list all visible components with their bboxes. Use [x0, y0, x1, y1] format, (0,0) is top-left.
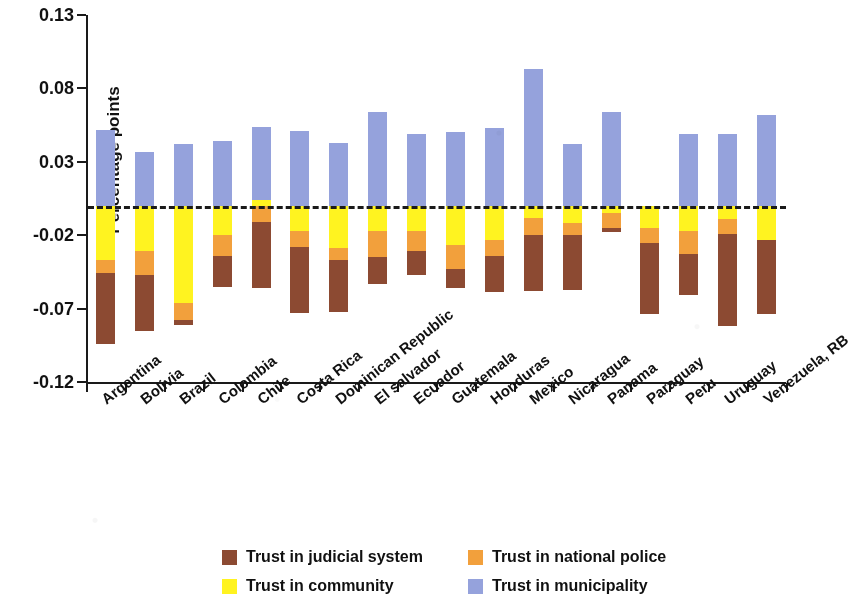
bar-segment [96, 260, 115, 273]
legend-label: Trust in national police [492, 548, 666, 566]
legend-swatch-icon [468, 579, 483, 594]
bar-segment [407, 231, 426, 252]
bar-segment [679, 134, 698, 206]
bar-segment [524, 69, 543, 206]
bar-segment [563, 223, 582, 235]
bar-dominican-republic [329, 15, 348, 382]
bar-segment [329, 260, 348, 311]
bar-mexico [524, 15, 543, 382]
y-tick-label: 0.13 [8, 5, 74, 26]
bar-costa-rica [290, 15, 309, 382]
bar-segment [563, 235, 582, 289]
y-tick-label: -0.12 [8, 372, 74, 393]
bar-segment [718, 234, 737, 326]
bar-segment [407, 206, 426, 231]
bar-segment [485, 256, 504, 293]
bar-segment [563, 144, 582, 206]
bar-segment [679, 254, 698, 295]
bar-segment [213, 206, 232, 235]
bar-segment [602, 228, 621, 232]
bar-segment [757, 115, 776, 206]
y-axis-line [86, 15, 88, 383]
y-tick-label: 0.08 [8, 78, 74, 99]
legend-item[interactable]: Trust in judicial system [222, 548, 423, 566]
bar-segment [329, 248, 348, 260]
bar-segment [96, 130, 115, 206]
bar-segment [446, 269, 465, 288]
bar-paraguay [640, 15, 659, 382]
legend-swatch-icon [222, 579, 237, 594]
y-tick-label: 0.03 [8, 151, 74, 172]
legend-swatch-icon [222, 550, 237, 565]
chart-legend: Trust in judicial systemTrust in nationa… [0, 545, 792, 603]
bar-segment [718, 134, 737, 206]
bar-segment [368, 231, 387, 257]
bar-brazil [174, 15, 193, 382]
bar-segment [96, 273, 115, 343]
legend-item[interactable]: Trust in municipality [468, 577, 648, 595]
y-tick-mark [77, 161, 86, 163]
bar-chile [252, 15, 271, 382]
x-tick-mark [86, 383, 88, 392]
bar-bolivia [135, 15, 154, 382]
bar-segment [96, 206, 115, 260]
bar-segment [679, 231, 698, 254]
bar-segment [602, 112, 621, 206]
bar-segment [213, 141, 232, 206]
y-tick-mark [77, 14, 86, 16]
y-tick-label: -0.07 [8, 298, 74, 319]
bar-peru [679, 15, 698, 382]
y-tick-mark [77, 308, 86, 310]
bar-segment [252, 222, 271, 288]
zero-reference-line [88, 206, 786, 209]
legend-item[interactable]: Trust in community [222, 577, 394, 595]
bar-segment [679, 206, 698, 231]
bar-segment [368, 112, 387, 206]
y-tick-mark [77, 381, 86, 383]
bar-segment [213, 235, 232, 256]
bar-segment [524, 218, 543, 236]
bar-segment [446, 245, 465, 268]
bar-segment [757, 240, 776, 315]
y-tick-mark [77, 87, 86, 89]
legend-swatch-icon [468, 550, 483, 565]
bar-segment [524, 235, 543, 291]
bar-segment [485, 128, 504, 206]
bar-segment [640, 243, 659, 315]
bar-segment [174, 144, 193, 206]
bar-segment [602, 213, 621, 228]
bar-nicaragua [563, 15, 582, 382]
bar-segment [290, 231, 309, 247]
bar-segment [407, 251, 426, 274]
bar-colombia [213, 15, 232, 382]
bar-segment [213, 256, 232, 287]
bar-segment [718, 219, 737, 234]
bar-segment [368, 257, 387, 283]
bar-guatemala [446, 15, 465, 382]
bar-segment [329, 143, 348, 206]
bar-segment [446, 206, 465, 246]
bar-segment [368, 206, 387, 231]
legend-label: Trust in municipality [492, 577, 648, 595]
bar-segment [174, 320, 193, 324]
bar-segment [485, 206, 504, 240]
bar-segment [485, 240, 504, 256]
bar-segment [174, 303, 193, 321]
legend-label: Trust in judicial system [246, 548, 423, 566]
bar-segment [135, 152, 154, 206]
bar-segment [290, 131, 309, 206]
bar-segment [757, 206, 776, 240]
bar-segment [640, 206, 659, 228]
bar-segment [135, 275, 154, 331]
legend-item[interactable]: Trust in national police [468, 548, 666, 566]
bar-segment [640, 228, 659, 243]
bar-venezuela-rb [757, 15, 776, 382]
bar-segment [407, 134, 426, 206]
legend-label: Trust in community [246, 577, 394, 595]
bar-segment [329, 206, 348, 249]
bar-panama [602, 15, 621, 382]
bar-segment [135, 251, 154, 274]
bar-argentina [96, 15, 115, 382]
bar-segment [174, 206, 193, 303]
